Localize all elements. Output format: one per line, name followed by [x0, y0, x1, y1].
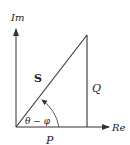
- vertical-side-label: Q: [92, 82, 101, 95]
- real-axis-label: Re: [111, 122, 126, 133]
- horizontal-side-label: P: [45, 134, 54, 145]
- hypotenuse-label: S: [34, 72, 42, 85]
- power-triangle-diagram: Im Re S Q P θ − φ: [0, 0, 130, 145]
- imaginary-axis-label: Im: [10, 12, 24, 23]
- hypotenuse-s-line: [16, 35, 87, 127]
- angle-label: θ − φ: [25, 116, 51, 126]
